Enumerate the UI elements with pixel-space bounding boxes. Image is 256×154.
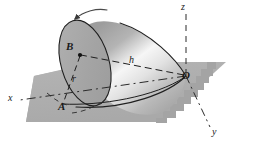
label-dimension-r: r [72, 74, 76, 84]
label-axis-z: z [181, 2, 185, 12]
label-point-O: O [182, 70, 190, 81]
figure-canvas [0, 0, 256, 154]
label-axis-y: y [212, 127, 216, 137]
label-dimension-h: h [129, 55, 134, 65]
cone-on-plane-figure: O A B r h x y z [0, 0, 256, 154]
label-point-A: A [58, 101, 65, 112]
rotation-arrow [75, 9, 107, 19]
label-axis-x: x [8, 93, 12, 103]
base-center-dot-icon [78, 53, 82, 57]
label-point-B: B [66, 41, 73, 52]
